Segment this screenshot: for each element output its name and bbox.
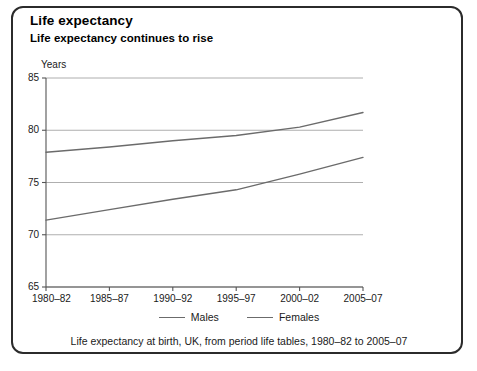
x-tick-label: 2005–07	[344, 293, 383, 304]
x-tick-label: 1995–97	[217, 293, 256, 304]
y-tick-label: 85	[13, 72, 39, 83]
y-tick-label: 70	[13, 229, 39, 240]
chart-legend: MalesFemales	[13, 311, 465, 323]
y-tick-label: 75	[13, 177, 39, 188]
x-tick-label: 1990–92	[153, 293, 192, 304]
x-tick-label: 1985–87	[90, 293, 129, 304]
legend-line-icon	[247, 317, 273, 318]
legend-item-males[interactable]: Males	[159, 311, 219, 323]
legend-label: Males	[191, 311, 219, 323]
series-line-males	[46, 157, 363, 220]
legend-label: Females	[279, 311, 319, 323]
x-tick-label: 2000–02	[280, 293, 319, 304]
y-tick-label: 80	[13, 124, 39, 135]
y-tick-label: 65	[13, 281, 39, 292]
legend-line-icon	[159, 317, 185, 318]
x-tick-label: 1980–82	[32, 293, 71, 304]
series-line-females	[46, 112, 363, 152]
chart-footnote: Life expectancy at birth, UK, from perio…	[13, 335, 465, 347]
chart-panel: Life expectancy Life expectancy continue…	[11, 6, 463, 354]
plot-area: 6570758085 1980–821985–871990–921995–972…	[13, 8, 465, 356]
legend-item-females[interactable]: Females	[247, 311, 319, 323]
